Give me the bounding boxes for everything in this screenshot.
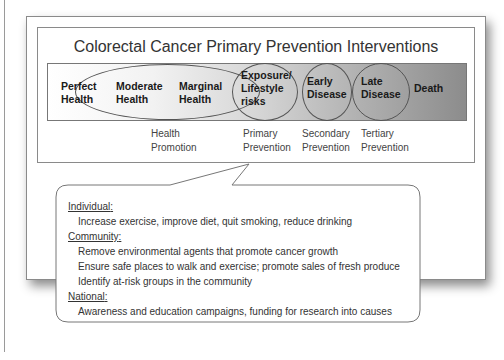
intervention-item: Awareness and education campaigns, fundi…: [68, 304, 400, 319]
section-heading-community: Community:: [68, 229, 400, 244]
section-heading-national: National:: [68, 289, 400, 304]
callout-content: Individual: Increase exercise, improve d…: [68, 199, 400, 319]
intervention-item: Identify at-risk groups in the community: [68, 274, 400, 289]
section-heading-individual: Individual:: [68, 199, 400, 214]
intervention-item: Remove environmental agents that promote…: [68, 244, 400, 259]
intervention-item: Increase exercise, improve diet, quit sm…: [68, 214, 400, 229]
intervention-item: Ensure safe places to walk and exercise;…: [68, 259, 400, 274]
